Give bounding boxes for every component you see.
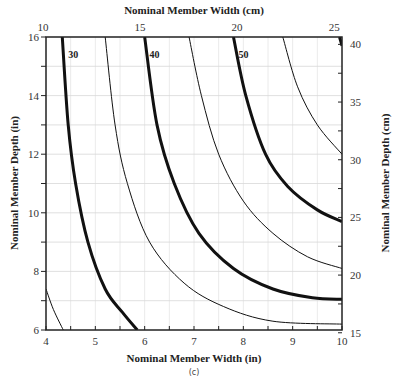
x2-axis-title: Nominal Member Width (cm) xyxy=(124,4,264,17)
x-tick-label: 10 xyxy=(337,335,349,347)
panel-label: (c) xyxy=(189,368,200,377)
curve-label-30: 30 xyxy=(68,49,78,60)
x-tick-label: 6 xyxy=(142,335,148,347)
x-tick-label: 9 xyxy=(290,335,296,347)
contour-line-25 xyxy=(46,289,63,330)
y-tick-label: 12 xyxy=(28,148,39,160)
y-axis-title: Nominal Member Depth (in) xyxy=(8,116,21,250)
y-tick-label: 10 xyxy=(28,207,40,219)
contour-line-35 xyxy=(105,37,342,324)
y2-tick-label: 15 xyxy=(350,327,362,339)
curve-label-40: 40 xyxy=(150,49,160,60)
y2-tick-label: 40 xyxy=(350,38,362,50)
x2-tick-label: 20 xyxy=(232,21,244,33)
x-tick-label: 7 xyxy=(191,335,197,347)
y-tick-label: 6 xyxy=(34,324,40,336)
contour-line-50 xyxy=(233,37,342,222)
y2-tick-label: 30 xyxy=(350,154,362,166)
x-tick-label: 8 xyxy=(241,335,247,347)
x-tick-label: 5 xyxy=(93,335,99,347)
x-tick-label: 4 xyxy=(43,335,49,347)
y2-tick-label: 35 xyxy=(350,96,362,108)
x2-tick-label: 15 xyxy=(135,21,147,33)
y-tick-label: 8 xyxy=(34,265,40,277)
y-tick-label: 14 xyxy=(28,90,40,102)
x2-tick-label: 25 xyxy=(329,21,341,33)
x2-tick-label: 10 xyxy=(37,21,49,33)
curve-label-50: 50 xyxy=(238,49,248,60)
x-axis-title: Nominal Member Width (in) xyxy=(127,352,262,365)
y2-axis-title: Nominal Member Depth (cm) xyxy=(379,113,392,252)
y2-tick-label: 25 xyxy=(350,211,362,223)
contour-chart: 4567891068101214161015202515202530354030… xyxy=(0,0,402,387)
y2-tick-label: 20 xyxy=(350,269,362,281)
